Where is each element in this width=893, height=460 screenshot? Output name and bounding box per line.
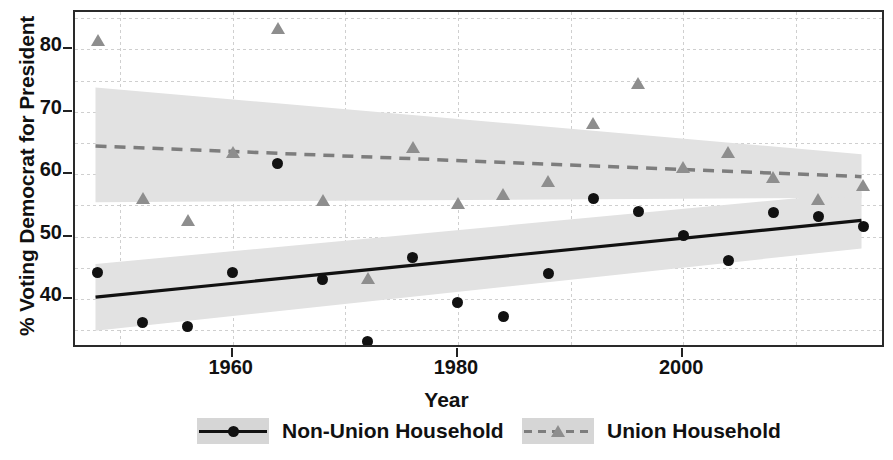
x-axis-title: Year <box>0 388 893 412</box>
y-tick-mark <box>63 235 72 237</box>
data-point-non-union <box>227 267 238 278</box>
data-points <box>75 12 882 345</box>
legend-item: Union Household <box>522 418 781 444</box>
circle-marker-icon <box>228 426 239 437</box>
triangle-marker-icon <box>551 425 565 437</box>
y-axis-tick-label: 60 <box>2 158 62 181</box>
y-axis-tick-label: 70 <box>2 96 62 119</box>
data-point-union <box>721 146 735 158</box>
data-point-non-union <box>362 336 373 347</box>
data-point-union <box>136 192 150 204</box>
y-axis-tick-label: 40 <box>2 283 62 306</box>
y-axis-tick-label: 50 <box>2 221 62 244</box>
x-tick-mark <box>681 348 683 357</box>
x-axis-tick-label: 1960 <box>186 356 276 379</box>
data-point-union <box>451 197 465 209</box>
data-point-union <box>586 117 600 129</box>
data-point-union <box>406 141 420 153</box>
data-point-non-union <box>317 274 328 285</box>
chart-figure: % Voting Democrat for President Year 405… <box>0 0 893 460</box>
x-tick-mark <box>456 348 458 357</box>
data-point-non-union <box>452 297 463 308</box>
data-point-union <box>676 161 690 173</box>
data-point-non-union <box>723 255 734 266</box>
y-tick-mark <box>63 47 72 49</box>
legend-item: Non-Union Household <box>197 418 504 444</box>
data-point-non-union <box>92 267 103 278</box>
data-point-non-union <box>858 221 869 232</box>
data-point-non-union <box>813 211 824 222</box>
data-point-non-union <box>768 207 779 218</box>
legend-label: Union Household <box>607 419 781 443</box>
data-point-union <box>91 34 105 46</box>
x-axis-tick-label: 2000 <box>636 356 726 379</box>
legend-key-non-union <box>197 418 269 444</box>
data-point-non-union <box>182 321 193 332</box>
data-point-union <box>181 214 195 226</box>
data-point-union <box>361 272 375 284</box>
data-point-non-union <box>272 158 283 169</box>
data-point-union <box>541 175 555 187</box>
data-point-union <box>271 22 285 34</box>
data-point-non-union <box>633 206 644 217</box>
y-tick-mark <box>63 297 72 299</box>
y-tick-mark <box>63 172 72 174</box>
y-tick-mark <box>63 110 72 112</box>
x-tick-mark <box>231 348 233 357</box>
data-point-union <box>496 188 510 200</box>
y-axis-tick-label: 80 <box>2 33 62 56</box>
data-point-union <box>766 171 780 183</box>
x-axis-tick-label: 1980 <box>411 356 501 379</box>
data-point-non-union <box>407 252 418 263</box>
data-point-non-union <box>588 193 599 204</box>
data-point-non-union <box>678 230 689 241</box>
data-point-union <box>631 77 645 89</box>
data-point-union <box>811 193 825 205</box>
data-point-union <box>316 194 330 206</box>
legend-key-union <box>522 418 594 444</box>
data-point-non-union <box>137 317 148 328</box>
data-point-union <box>856 179 870 191</box>
legend-label: Non-Union Household <box>282 419 504 443</box>
data-point-non-union <box>543 268 554 279</box>
data-point-union <box>226 146 240 158</box>
chart-legend: Non-Union HouseholdUnion Household <box>0 418 893 458</box>
data-point-non-union <box>498 311 509 322</box>
plot-area <box>73 10 884 347</box>
